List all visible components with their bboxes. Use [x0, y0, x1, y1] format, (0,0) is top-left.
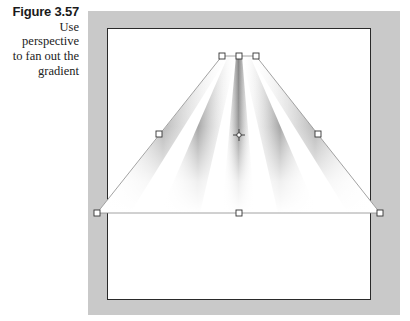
- handle-top-center[interactable]: [236, 53, 242, 59]
- handle-middle-left[interactable]: [156, 131, 162, 137]
- handle-bottom-right[interactable]: [377, 210, 383, 216]
- handle-bottom-center[interactable]: [236, 210, 242, 216]
- handle-bottom-left[interactable]: [94, 210, 100, 216]
- handle-top-right[interactable]: [253, 53, 259, 59]
- handle-top-left[interactable]: [219, 53, 225, 59]
- gradient-artwork: [0, 0, 410, 321]
- handle-middle-right[interactable]: [315, 131, 321, 137]
